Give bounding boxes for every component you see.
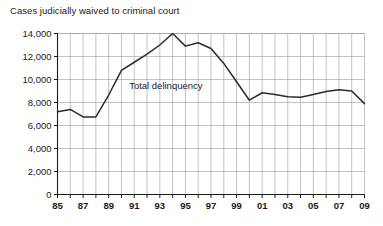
x-axis-tick-label: 85 [52,200,63,211]
series-annotation-label: Total delinquency [129,80,203,91]
x-axis-tick-label: 91 [129,200,140,211]
x-axis-tick-label: 97 [206,200,217,211]
y-axis-tick-label: 2,000 [28,166,52,177]
x-axis-tick-label: 05 [308,200,319,211]
chart-container: Cases judicially waived to criminal cour… [0,0,383,226]
x-axis-tick-label: 07 [334,200,345,211]
y-axis-tick-group: 02,0004,0006,0008,00010,00012,00014,000 [22,28,57,200]
y-axis-tick-label: 12,000 [22,51,51,62]
x-axis-tick-label: 95 [180,200,191,211]
line-chart-plot: 02,0004,0006,0008,00010,00012,00014,000 … [0,0,383,226]
x-axis-tick-label: 99 [231,200,242,211]
y-axis-tick-label: 14,000 [22,28,51,39]
y-axis-tick-label: 0 [46,189,51,200]
x-axis-tick-label: 87 [78,200,89,211]
y-axis-tick-label: 6,000 [28,120,52,131]
x-axis-tick-group: 85878991939597990103050709 [52,195,370,212]
y-axis-tick-label: 8,000 [28,97,52,108]
x-axis-tick-label: 03 [282,200,293,211]
x-axis-tick-label: 09 [359,200,370,211]
y-axis-tick-label: 4,000 [28,143,52,154]
x-axis-tick-label: 89 [103,200,114,211]
vertical-gridlines [70,34,364,195]
x-axis-tick-label: 01 [257,200,268,211]
x-axis-tick-label: 93 [155,200,166,211]
y-axis-tick-label: 10,000 [22,74,51,85]
